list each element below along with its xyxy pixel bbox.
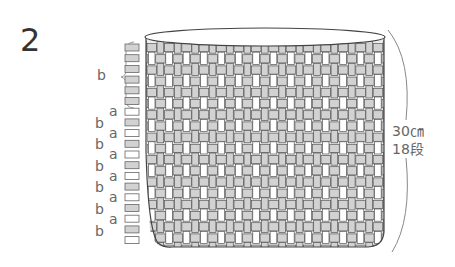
comb-tooth — [125, 183, 139, 190]
comb-tooth — [125, 151, 139, 158]
comb-tooth — [125, 162, 139, 169]
row-label-a: a — [109, 147, 118, 161]
row-label-b: b — [95, 202, 104, 216]
height-label: 30㎝ — [392, 122, 424, 140]
row-label-b: b — [95, 137, 104, 151]
row-label-b: b — [95, 159, 104, 173]
basket-weave-diagram — [0, 0, 455, 267]
comb-tooth — [125, 172, 139, 179]
comb-tooth — [125, 44, 139, 51]
comb-tooth — [125, 205, 139, 212]
row-label-a: a — [109, 104, 118, 118]
row-comb — [125, 44, 139, 244]
comb-tooth — [125, 55, 139, 62]
comb-tooth — [125, 98, 139, 105]
row-label-a: a — [109, 126, 118, 140]
row-label-a: a — [109, 190, 118, 204]
comb-tooth — [125, 119, 139, 126]
comb-tooth — [125, 140, 139, 147]
comb-tooth — [125, 108, 139, 115]
row-label-b: b — [95, 116, 104, 130]
comb-tooth — [125, 215, 139, 222]
comb-tooth — [125, 226, 139, 233]
row-label-a: a — [109, 169, 118, 183]
comb-tooth — [125, 194, 139, 201]
comb-tooth — [125, 237, 139, 244]
dimension-label: 30㎝ 18段 — [392, 122, 424, 158]
comb-tooth — [125, 87, 139, 94]
rows-label: 18段 — [392, 140, 424, 158]
row-label-b: b — [95, 180, 104, 194]
comb-tooth — [125, 130, 139, 137]
basket-rim — [145, 28, 385, 46]
comb-tooth — [125, 65, 139, 72]
row-label-a: a — [109, 212, 118, 226]
weave-pattern — [130, 30, 434, 255]
top-section-label: b — [97, 68, 106, 82]
row-label-b: b — [95, 224, 104, 238]
comb-tooth — [125, 76, 139, 83]
